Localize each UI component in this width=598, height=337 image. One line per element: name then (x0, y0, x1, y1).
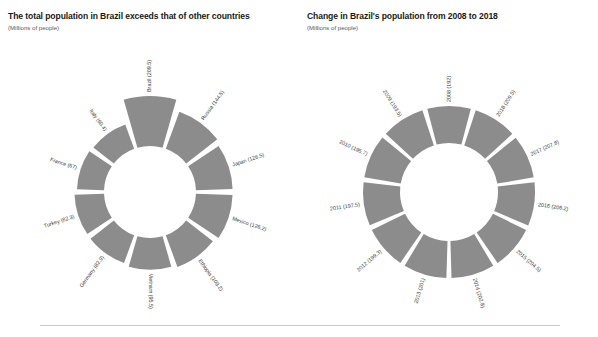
footer-divider (40, 325, 560, 326)
slice-label: Mexico (126.2) (232, 215, 268, 232)
donut-slice[interactable] (124, 96, 177, 148)
donut-slice[interactable] (129, 236, 172, 269)
donut-chart-countries: Brazil (209.5)Russia (144.5)Japan (126.5… (0, 0, 299, 337)
donut-svg-years: 2018 (209.5)2017 (207.8)2016 (206.2)2015… (299, 0, 598, 337)
slice-label: Vietnam (95.5) (148, 274, 154, 309)
slice-label: Turkey (82.3) (43, 213, 75, 229)
chart-panel-years: Change in Brazil's population from 2008 … (299, 0, 598, 337)
slice-label: 2009 (193.5) (382, 89, 404, 118)
slice-label: Germany (82.9) (78, 254, 105, 288)
slice-label: France (67) (49, 156, 78, 170)
slice-label: 2011 (197.5) (330, 201, 361, 211)
slice-label: 2010 (195.7) (338, 139, 368, 157)
donut-slice[interactable] (93, 124, 134, 163)
slice-label: Ethiopia (109.2) (197, 258, 224, 292)
slice-label: 2008 (192) (445, 76, 451, 102)
donut-slice[interactable] (427, 106, 471, 145)
slice-label: 2014 (202.8) (472, 277, 486, 308)
slice-label: 2012 (199.3) (355, 248, 382, 273)
donut-svg-countries: Brazil (209.5)Russia (144.5)Japan (126.5… (0, 0, 299, 337)
slice-label: Brazil (209.5) (146, 60, 152, 92)
donut-chart-years: 2018 (209.5)2017 (207.8)2016 (206.2)2015… (299, 0, 598, 337)
slice-label: Japan (126.5) (231, 151, 265, 167)
figure-canvas: The total population in Brazil exceeds t… (0, 0, 598, 337)
slice-label: 2013 (201) (413, 277, 426, 304)
slice-label: 2016 (206.2) (538, 201, 569, 211)
slice-label: Russia (144.5) (200, 89, 226, 121)
chart-panel-countries: The total population in Brazil exceeds t… (0, 0, 299, 337)
slice-label: 2017 (207.8) (529, 139, 559, 157)
slice-label: 2018 (209.5) (495, 89, 517, 118)
slice-label: Italy (60.4) (88, 108, 108, 132)
slice-label: 2015 (204.5) (515, 248, 542, 273)
